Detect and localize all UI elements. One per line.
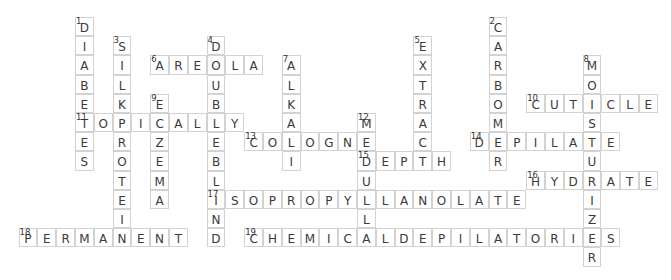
crossword-cell[interactable]: R [489, 151, 508, 170]
crossword-cell[interactable]: D [395, 228, 414, 247]
crossword-cell[interactable]: 17I [207, 190, 226, 209]
crossword-cell[interactable]: E [583, 228, 602, 247]
crossword-cell[interactable]: A [489, 36, 508, 55]
crossword-cell[interactable]: R [169, 55, 188, 74]
crossword-cell[interactable]: R [583, 171, 602, 190]
crossword-cell[interactable]: 4D [207, 36, 226, 55]
crossword-cell[interactable]: L [113, 75, 132, 94]
crossword-cell[interactable]: C [338, 228, 357, 247]
crossword-cell[interactable]: U [357, 171, 376, 190]
crossword-cell[interactable]: L [282, 75, 301, 94]
crossword-cell[interactable]: T [507, 228, 526, 247]
crossword-cell[interactable]: B [207, 94, 226, 113]
crossword-cell[interactable]: 12M [357, 113, 376, 132]
crossword-cell[interactable]: B [207, 151, 226, 170]
crossword-cell[interactable]: L [470, 228, 489, 247]
crossword-cell[interactable]: I [75, 36, 94, 55]
crossword-cell[interactable]: A [282, 113, 301, 132]
crossword-cell[interactable]: R [113, 132, 132, 151]
crossword-cell[interactable]: T [169, 228, 188, 247]
crossword-cell[interactable]: I [113, 55, 132, 74]
crossword-cell[interactable]: 10C [526, 94, 545, 113]
crossword-cell[interactable]: 6A [150, 55, 169, 74]
crossword-cell[interactable]: O [207, 55, 226, 74]
crossword-cell[interactable]: L [451, 190, 470, 209]
crossword-cell[interactable]: L [207, 171, 226, 190]
crossword-cell[interactable]: S [75, 151, 94, 170]
crossword-cell[interactable]: U [545, 94, 564, 113]
crossword-cell[interactable]: Z [583, 209, 602, 228]
crossword-cell[interactable]: I [564, 228, 583, 247]
crossword-cell[interactable]: I [526, 132, 545, 151]
crossword-cell[interactable]: A [395, 190, 414, 209]
crossword-cell[interactable]: Y [338, 190, 357, 209]
crossword-cell[interactable]: I [282, 151, 301, 170]
crossword-cell[interactable]: I [131, 113, 150, 132]
crossword-cell[interactable]: G [319, 132, 338, 151]
crossword-cell[interactable]: L [376, 228, 395, 247]
crossword-cell[interactable]: 2C [489, 17, 508, 36]
crossword-cell[interactable]: Y [225, 113, 244, 132]
crossword-cell[interactable]: X [413, 55, 432, 74]
crossword-cell[interactable]: L [376, 190, 395, 209]
crossword-cell[interactable]: N [150, 228, 169, 247]
crossword-cell[interactable]: E [188, 55, 207, 74]
crossword-cell[interactable]: 5E [413, 36, 432, 55]
crossword-cell[interactable]: C [413, 132, 432, 151]
crossword-cell[interactable]: H [432, 151, 451, 170]
crossword-cell[interactable]: S [601, 228, 620, 247]
crossword-cell[interactable]: A [413, 113, 432, 132]
crossword-cell[interactable]: A [244, 55, 263, 74]
crossword-cell[interactable]: A [75, 55, 94, 74]
crossword-cell[interactable]: R [583, 247, 602, 266]
crossword-cell[interactable]: H [263, 228, 282, 247]
crossword-cell[interactable]: E [357, 132, 376, 151]
crossword-cell[interactable]: U [207, 75, 226, 94]
crossword-cell[interactable]: I [319, 228, 338, 247]
crossword-cell[interactable]: O [94, 113, 113, 132]
crossword-cell[interactable]: L [282, 132, 301, 151]
crossword-cell[interactable]: A [470, 190, 489, 209]
crossword-cell[interactable]: E [207, 132, 226, 151]
crossword-cell[interactable]: Y [545, 171, 564, 190]
crossword-cell[interactable]: E [413, 228, 432, 247]
crossword-cell[interactable]: 7A [282, 55, 301, 74]
crossword-cell[interactable]: I [583, 190, 602, 209]
crossword-cell[interactable]: Z [150, 132, 169, 151]
crossword-cell[interactable]: 11T [75, 113, 94, 132]
crossword-cell[interactable]: E [150, 151, 169, 170]
crossword-cell[interactable]: L [188, 113, 207, 132]
crossword-cell[interactable]: I [583, 94, 602, 113]
crossword-cell[interactable]: P [432, 228, 451, 247]
crossword-cell[interactable]: C [601, 94, 620, 113]
crossword-cell[interactable]: M [301, 228, 320, 247]
crossword-cell[interactable]: O [301, 190, 320, 209]
crossword-cell[interactable]: D [207, 228, 226, 247]
crossword-cell[interactable]: 13C [244, 132, 263, 151]
crossword-cell[interactable]: A [94, 228, 113, 247]
crossword-cell[interactable]: A [601, 171, 620, 190]
crossword-cell[interactable]: M [150, 171, 169, 190]
crossword-cell[interactable]: L [225, 55, 244, 74]
crossword-cell[interactable]: T [113, 171, 132, 190]
crossword-cell[interactable]: E [282, 228, 301, 247]
crossword-cell[interactable]: O [583, 75, 602, 94]
crossword-cell[interactable]: A [357, 228, 376, 247]
crossword-cell[interactable]: N [338, 132, 357, 151]
crossword-cell[interactable]: 14D [470, 132, 489, 151]
crossword-cell[interactable]: R [413, 94, 432, 113]
crossword-cell[interactable]: P [319, 190, 338, 209]
crossword-cell[interactable]: E [75, 132, 94, 151]
crossword-cell[interactable]: B [489, 75, 508, 94]
crossword-cell[interactable]: L [357, 190, 376, 209]
crossword-cell[interactable]: D [564, 171, 583, 190]
crossword-cell[interactable]: M [75, 228, 94, 247]
crossword-cell[interactable]: T [620, 171, 639, 190]
crossword-cell[interactable]: C [150, 113, 169, 132]
crossword-cell[interactable]: O [244, 190, 263, 209]
crossword-cell[interactable]: L [545, 132, 564, 151]
crossword-cell[interactable]: P [263, 190, 282, 209]
crossword-cell[interactable]: E [639, 171, 658, 190]
crossword-cell[interactable]: S [225, 190, 244, 209]
crossword-cell[interactable]: O [263, 132, 282, 151]
